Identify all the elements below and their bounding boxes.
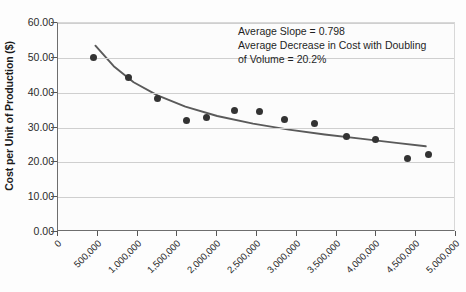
x-tick-label: 3,000,000 xyxy=(266,239,304,277)
gridline xyxy=(58,162,454,163)
x-tick-label: 2,500,000 xyxy=(226,239,264,277)
annotation-line-3: of Volume = 20.2% xyxy=(238,52,426,66)
gridline xyxy=(58,197,454,198)
x-tick-mark xyxy=(57,231,58,236)
y-tick-mark xyxy=(51,127,57,128)
data-point xyxy=(372,136,379,143)
x-tick-mark xyxy=(137,231,138,236)
y-tick-mark xyxy=(51,22,57,23)
y-tick-mark xyxy=(51,196,57,197)
data-point xyxy=(281,116,288,123)
x-tick-mark xyxy=(97,231,98,236)
x-tick-label: 5,000,000 xyxy=(425,239,463,277)
data-point xyxy=(231,107,238,114)
y-tick-mark xyxy=(51,92,57,93)
x-tick-mark xyxy=(216,231,217,236)
x-tick-mark xyxy=(256,231,257,236)
data-point xyxy=(256,108,263,115)
y-tick-label: 50.00 xyxy=(18,51,54,63)
x-tick-label: 0 xyxy=(53,239,65,251)
x-tick-mark xyxy=(455,231,456,236)
y-tick-mark xyxy=(51,231,57,232)
y-tick-mark xyxy=(51,161,57,162)
data-point xyxy=(203,114,210,121)
x-tick-label: 500,000 xyxy=(73,239,105,271)
x-tick-label: 1,500,000 xyxy=(147,239,185,277)
x-tick-label: 1,000,000 xyxy=(107,239,145,277)
y-tick-label: 20.00 xyxy=(18,155,54,167)
x-tick-mark xyxy=(296,231,297,236)
chart-annotation: Average Slope = 0.798 Average Decrease i… xyxy=(238,24,426,67)
x-tick-label: 4,000,000 xyxy=(346,239,384,277)
gridline xyxy=(58,128,454,129)
annotation-line-2: Average Decrease in Cost with Doubling xyxy=(238,38,426,52)
cost-per-unit-chart: Cost per Unit of Production ($) 0.0010.0… xyxy=(0,0,466,292)
x-tick-mark xyxy=(176,231,177,236)
y-tick-label: 30.00 xyxy=(18,121,54,133)
x-tick-mark xyxy=(336,231,337,236)
gridline xyxy=(58,93,454,94)
x-tick-label: 3,500,000 xyxy=(306,239,344,277)
data-point xyxy=(311,120,318,127)
x-tick-label: 4,500,000 xyxy=(385,239,423,277)
x-tick-label: 2,000,000 xyxy=(186,239,224,277)
y-tick-label: 10.00 xyxy=(18,190,54,202)
x-tick-mark xyxy=(415,231,416,236)
data-point xyxy=(90,54,97,61)
y-tick-label: 60.00 xyxy=(18,16,54,28)
annotation-line-1: Average Slope = 0.798 xyxy=(238,24,426,38)
y-tick-label: 40.00 xyxy=(18,86,54,98)
y-tick-label: 0.00 xyxy=(18,225,54,237)
y-tick-mark xyxy=(51,57,57,58)
y-axis-tick-labels: 0.0010.0020.0030.0040.0050.0060.00 xyxy=(14,0,54,292)
data-point xyxy=(125,74,132,81)
x-tick-mark xyxy=(375,231,376,236)
